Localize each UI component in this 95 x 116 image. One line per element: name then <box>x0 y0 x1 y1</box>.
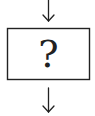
question-mark-label: ? <box>7 28 90 80</box>
incoming-arrow <box>43 0 54 21</box>
outgoing-arrow <box>43 88 54 112</box>
